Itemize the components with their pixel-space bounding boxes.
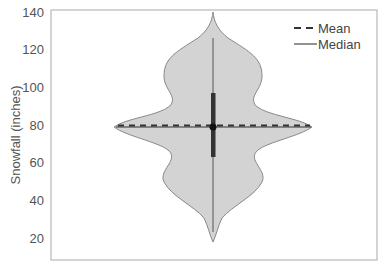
y-tick: 140 [22, 5, 44, 20]
legend-median-label: Median [318, 37, 361, 52]
y-axis: 140 120 100 80 60 40 20 [22, 5, 44, 246]
median-point [210, 124, 217, 131]
y-tick: 20 [30, 231, 44, 246]
y-tick: 100 [22, 80, 44, 95]
violin-chart: 140 120 100 80 60 40 20 Snowfall (inches… [0, 0, 386, 269]
y-tick: 40 [30, 193, 44, 208]
y-tick: 80 [30, 118, 44, 133]
y-tick: 120 [22, 42, 44, 57]
legend-mean-label: Mean [318, 21, 351, 36]
y-axis-label: Snowfall (inches) [8, 86, 23, 185]
y-tick: 60 [30, 155, 44, 170]
